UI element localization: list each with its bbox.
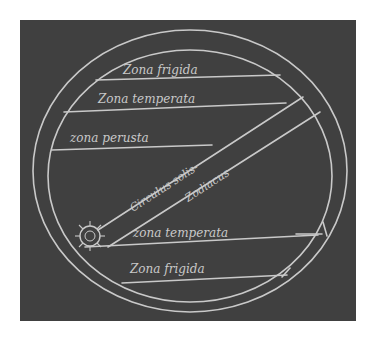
- zone-label-frigida-north: Zona frigida: [122, 63, 198, 77]
- zone-label-temperata-north: Zona temperata: [97, 92, 195, 106]
- divider-line-3: [52, 145, 212, 150]
- divider-line-5: [122, 275, 287, 283]
- right-mark: [296, 222, 327, 236]
- zone-label-temperata-south: zona temperata: [132, 226, 228, 240]
- zone-label-perusta: zona perusta: [69, 131, 149, 145]
- band-label-line1: Circulus solis-: [128, 161, 201, 215]
- zone-label-frigida-south: Zona frigida: [129, 262, 205, 276]
- ecliptic-band-upper: [98, 97, 303, 230]
- climate-zones-diagram: Zona frigida Zona temperata zona perusta…: [0, 0, 379, 340]
- sun-icon: [75, 221, 105, 251]
